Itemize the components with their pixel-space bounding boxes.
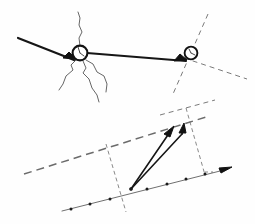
tick-dot (89, 203, 92, 206)
upper-dashed-baseline (24, 117, 206, 174)
resultant-vector-head (164, 126, 174, 137)
crack-up (78, 12, 82, 46)
component-vector (131, 123, 186, 189)
incoming-arrow (18, 38, 76, 60)
crack-down-center (83, 61, 99, 102)
dashed-line-shallow (184, 58, 247, 79)
tick-dot (109, 198, 112, 201)
upper-panel (18, 12, 247, 102)
tick-dot (70, 208, 73, 211)
figure-root (0, 0, 255, 224)
tick-axis (62, 167, 232, 211)
left-node (73, 46, 88, 61)
crack-down-left (59, 60, 76, 90)
dashed-vertical-left (106, 144, 126, 212)
tick-dot (204, 173, 207, 176)
origin-point (129, 187, 133, 191)
lower-panel (24, 100, 232, 212)
resultant-vector (131, 126, 174, 189)
dashed-horizontal-top (160, 100, 215, 115)
transfer-arrow-shaft (87, 53, 186, 61)
tick-dot (166, 183, 169, 186)
tick-axis-arrowhead (219, 167, 232, 173)
component-vector-shaft (131, 134, 182, 189)
right-node (185, 47, 198, 60)
tick-dot (146, 188, 149, 191)
crack-down-right (86, 60, 107, 92)
tick-axis-line (62, 169, 228, 211)
tick-dot (185, 178, 188, 181)
transfer-arrow (87, 53, 187, 61)
sketch-canvas (0, 0, 255, 224)
